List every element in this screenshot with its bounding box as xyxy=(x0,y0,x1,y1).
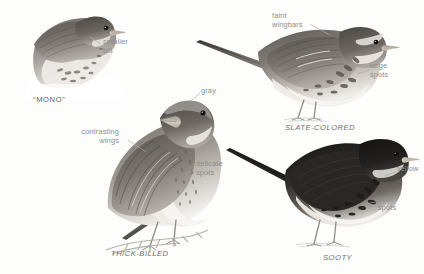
callout-large-spots: large spots xyxy=(370,61,388,79)
caption-mono: “MONO” xyxy=(33,95,65,104)
callout-dark-spots: dark spots xyxy=(378,194,396,212)
caption-slate-colored: SLATE-COLORED xyxy=(285,123,355,132)
leader-gray xyxy=(190,93,200,102)
callout-yellow: yellow xyxy=(397,164,418,173)
caption-sooty: SOOTY xyxy=(323,253,352,262)
callout-smaller-bill: smaller bill xyxy=(103,37,128,55)
caption-thick-billed: THICK-BILLED xyxy=(111,249,168,258)
callout-delicate-spots: delicate spots xyxy=(196,159,223,177)
callout-gray: gray xyxy=(201,86,216,95)
bird-mono xyxy=(26,17,126,102)
callout-contrasting-wings: contrasting wings xyxy=(62,127,119,145)
callout-faint-wingbars: faint wingbars xyxy=(272,11,303,29)
